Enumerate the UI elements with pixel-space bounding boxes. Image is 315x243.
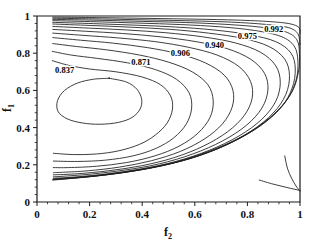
contour-line <box>57 78 142 124</box>
contour-plot-figure: 0.8370.8370.8710.8710.9060.9060.9400.940… <box>0 0 315 243</box>
contour-line <box>259 180 300 190</box>
contour-line <box>53 33 253 175</box>
y-tick-label: 0.2 <box>16 159 30 171</box>
contour-label: 0.837 <box>55 65 75 75</box>
x-axis-title: f2 <box>164 225 172 241</box>
x-tick-label: 0.8 <box>241 208 255 220</box>
x-tick-label: 0.4 <box>135 208 149 220</box>
x-tick-label: 0.6 <box>188 208 202 220</box>
contour-label: 0.940 <box>205 40 224 50</box>
plot-canvas: 0.8370.8370.8710.8710.9060.9060.9400.940… <box>0 0 315 243</box>
contour-group <box>52 17 300 191</box>
x-tick-label: 1 <box>297 208 303 220</box>
y-tick-label: 1 <box>25 10 31 22</box>
x-tick-label: 0.2 <box>83 208 97 220</box>
contour-line <box>53 26 280 178</box>
y-axis-title-subscript: 1 <box>7 104 16 108</box>
axis-text-group: 00.20.40.60.8100.20.40.60.81f2f1 <box>0 10 303 241</box>
y-tick-label: 0.8 <box>16 47 30 59</box>
contour-label: 0.975 <box>238 31 257 41</box>
x-axis-title-subscript: 2 <box>168 232 172 241</box>
contour-line <box>285 156 300 191</box>
contour-label: 0.871 <box>131 57 150 67</box>
contour-label: 0.992 <box>264 24 283 34</box>
y-tick-label: 0 <box>25 196 31 208</box>
contour-label: 0.906 <box>171 48 190 58</box>
contour-line <box>52 61 172 155</box>
y-tick-label: 0.6 <box>16 84 30 96</box>
contour-line <box>53 22 296 179</box>
y-tick-label: 0.4 <box>16 122 30 134</box>
y-axis-title: f1 <box>0 104 16 112</box>
x-tick-label: 0 <box>34 208 40 220</box>
